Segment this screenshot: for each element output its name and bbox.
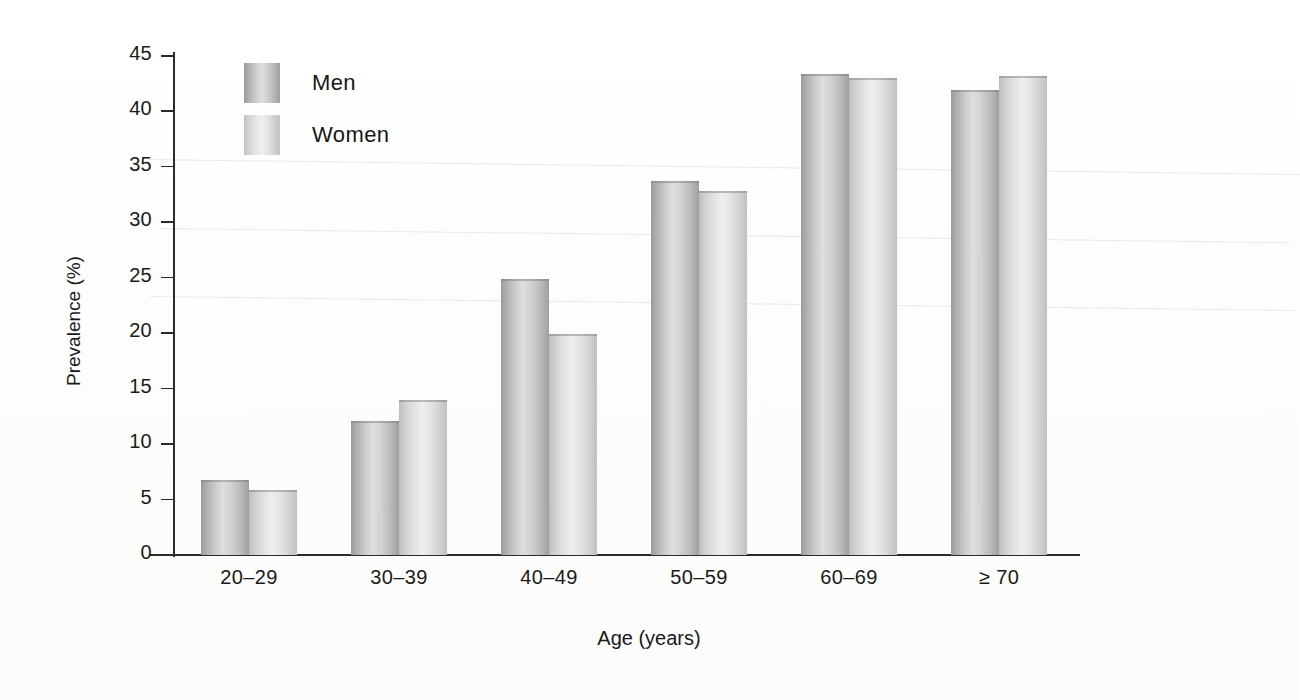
y-axis-tick-label: 25 — [106, 264, 152, 287]
bar-women — [999, 76, 1047, 555]
bar-top-edge — [951, 90, 999, 92]
y-axis-tick — [161, 499, 173, 501]
y-axis-tick-label: 15 — [106, 375, 152, 398]
y-axis-tick-label: 30 — [106, 208, 152, 231]
legend-label: Men — [312, 70, 356, 96]
y-axis-title: Prevalence (%) — [63, 221, 85, 421]
y-axis-tick-label: 45 — [106, 42, 152, 65]
y-axis-tick — [161, 277, 173, 279]
bar-women — [849, 78, 897, 555]
y-axis-tick-label: 40 — [106, 97, 152, 120]
y-axis-tick — [161, 55, 173, 57]
bar-top-edge — [351, 421, 399, 423]
y-axis-tick — [161, 554, 173, 556]
y-axis-tick-label: 10 — [106, 430, 152, 453]
bar-men — [951, 90, 999, 555]
bar-men — [501, 279, 549, 555]
y-axis-tick-label: 20 — [106, 319, 152, 342]
y-axis-tick — [161, 166, 173, 168]
bar-top-edge — [999, 76, 1047, 78]
bar-top-edge — [201, 480, 249, 482]
y-axis-tick — [161, 443, 173, 445]
x-axis-tick-label: 60–69 — [769, 566, 929, 589]
legend-item-men: Men — [244, 62, 484, 104]
bar-women — [549, 334, 597, 555]
y-axis-tick — [161, 221, 173, 223]
bar-men — [351, 421, 399, 555]
y-axis-tick — [161, 332, 173, 334]
x-axis-tick-label: 30–39 — [319, 566, 479, 589]
bar-top-edge — [651, 181, 699, 183]
x-axis-tick-label: ≥ 70 — [919, 566, 1079, 589]
bar-women — [699, 191, 747, 555]
bar-men — [801, 74, 849, 555]
bar-top-edge — [249, 490, 297, 492]
legend-swatch-women — [244, 115, 280, 155]
bar-men — [201, 480, 249, 555]
bar-men — [651, 181, 699, 555]
bar-top-edge — [801, 74, 849, 76]
legend-item-women: Women — [244, 114, 484, 156]
legend-swatch-men — [244, 63, 280, 103]
y-axis-tick-label: 35 — [106, 153, 152, 176]
bar-women — [399, 400, 447, 555]
x-axis-tick-label: 20–29 — [169, 566, 329, 589]
y-axis-tick-label: 5 — [106, 486, 152, 509]
bar-top-edge — [699, 191, 747, 193]
bar-top-edge — [399, 400, 447, 402]
y-axis-tick — [161, 110, 173, 112]
y-axis-tick-labels: 051015202530354045 — [96, 0, 152, 700]
bar-top-edge — [501, 279, 549, 281]
bar-women — [249, 490, 297, 555]
x-axis-tick-label: 50–59 — [619, 566, 779, 589]
x-axis-title: Age (years) — [0, 627, 1298, 650]
x-axis-tick-label: 40–49 — [469, 566, 629, 589]
y-axis-tick-label: 0 — [106, 541, 152, 564]
chart-legend: MenWomen — [244, 62, 484, 166]
bar-top-edge — [549, 334, 597, 336]
bar-top-edge — [849, 78, 897, 80]
legend-label: Women — [312, 122, 389, 148]
y-axis-tick — [161, 388, 173, 390]
